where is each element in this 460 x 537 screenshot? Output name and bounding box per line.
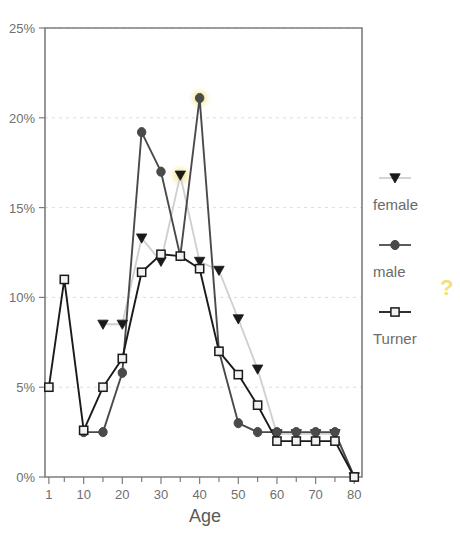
chart-root: 0%5%10%15%20%25% 11020304050607080 Age f… <box>0 0 460 537</box>
x-tick-label-10: 10 <box>76 487 90 502</box>
x-tick-label-30: 30 <box>154 487 168 502</box>
x-tick-label-1: 1 <box>45 487 52 502</box>
data-point-male <box>292 428 300 437</box>
data-point-male <box>118 368 126 377</box>
data-point-male <box>331 428 339 437</box>
data-point-Turner <box>273 437 281 445</box>
line-chart: 0%5%10%15%20%25% 11020304050607080 Age f… <box>0 0 460 537</box>
x-tick-label-50: 50 <box>231 487 245 502</box>
data-point-Turner <box>138 268 146 276</box>
data-point-Turner <box>99 383 107 391</box>
x-tick-label-20: 20 <box>115 487 129 502</box>
x-tick-label-70: 70 <box>308 487 322 502</box>
data-point-Turner <box>234 371 242 379</box>
y-tick-label-10: 10% <box>9 290 35 305</box>
legend-label-male: male <box>373 263 406 280</box>
x-tick-label-60: 60 <box>270 487 284 502</box>
data-point-male <box>234 419 242 428</box>
y-tick-label-15: 15% <box>9 201 35 216</box>
data-point-Turner <box>157 250 165 258</box>
y-tick-label-5: 5% <box>16 380 35 395</box>
x-tick-label-40: 40 <box>192 487 206 502</box>
square-icon <box>391 308 399 316</box>
data-point-Turner <box>80 426 88 434</box>
data-point-Turner <box>292 437 300 445</box>
data-point-Turner <box>118 354 126 362</box>
data-point-male <box>195 93 203 102</box>
circle-icon <box>391 240 399 249</box>
y-tick-label-0: 0% <box>16 470 35 485</box>
legend-label-female: female <box>373 196 418 213</box>
data-point-male <box>157 167 165 176</box>
data-point-Turner <box>176 252 184 260</box>
data-point-male <box>99 428 107 437</box>
y-tick-label-20: 20% <box>9 111 35 126</box>
data-point-Turner <box>215 347 223 355</box>
data-point-male <box>253 428 261 437</box>
data-point-Turner <box>60 275 68 283</box>
data-point-Turner <box>45 383 53 391</box>
y-tick-label-25: 25% <box>9 21 35 36</box>
data-point-male <box>273 428 281 437</box>
data-point-male <box>311 428 319 437</box>
data-point-male <box>137 128 145 137</box>
question-mark-annotation: ? <box>440 275 453 300</box>
data-point-Turner <box>350 473 358 481</box>
x-axis-title: Age <box>189 506 221 526</box>
x-tick-label-80: 80 <box>347 487 361 502</box>
data-point-Turner <box>254 401 262 409</box>
data-point-Turner <box>196 265 204 273</box>
legend-label-Turner: Turner <box>373 330 417 347</box>
data-point-Turner <box>331 437 339 445</box>
data-point-Turner <box>312 437 320 445</box>
